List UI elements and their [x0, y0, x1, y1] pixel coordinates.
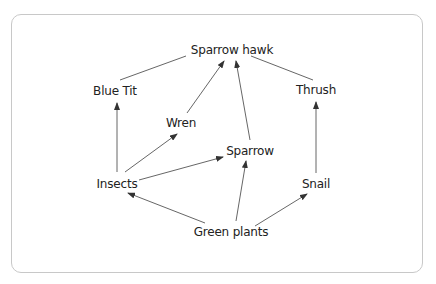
edge-blue-tit-sparrow-hawk [120, 56, 186, 80]
node-blue-tit: Blue Tit [93, 85, 137, 97]
node-sparrow: Sparrow [226, 145, 274, 157]
edge-green-plants-sparrow [236, 161, 246, 221]
edge-wren-sparrow-hawk [187, 61, 224, 113]
edge-sparrow-sparrow-hawk [236, 61, 250, 140]
node-snail: Snail [302, 178, 330, 190]
node-thrush: Thrush [296, 84, 336, 96]
node-sparrow-hawk: Sparrow hawk [191, 44, 273, 56]
edge-green-plants-snail [255, 194, 307, 226]
edge-thrush-sparrow-hawk [251, 56, 313, 80]
node-insects: Insects [97, 178, 138, 190]
edge-green-plants-insects [128, 193, 205, 223]
node-green-plants: Green plants [194, 226, 269, 238]
edge-insects-sparrow [139, 157, 223, 180]
edge-insects-wren [125, 134, 177, 172]
node-wren: Wren [166, 117, 196, 129]
